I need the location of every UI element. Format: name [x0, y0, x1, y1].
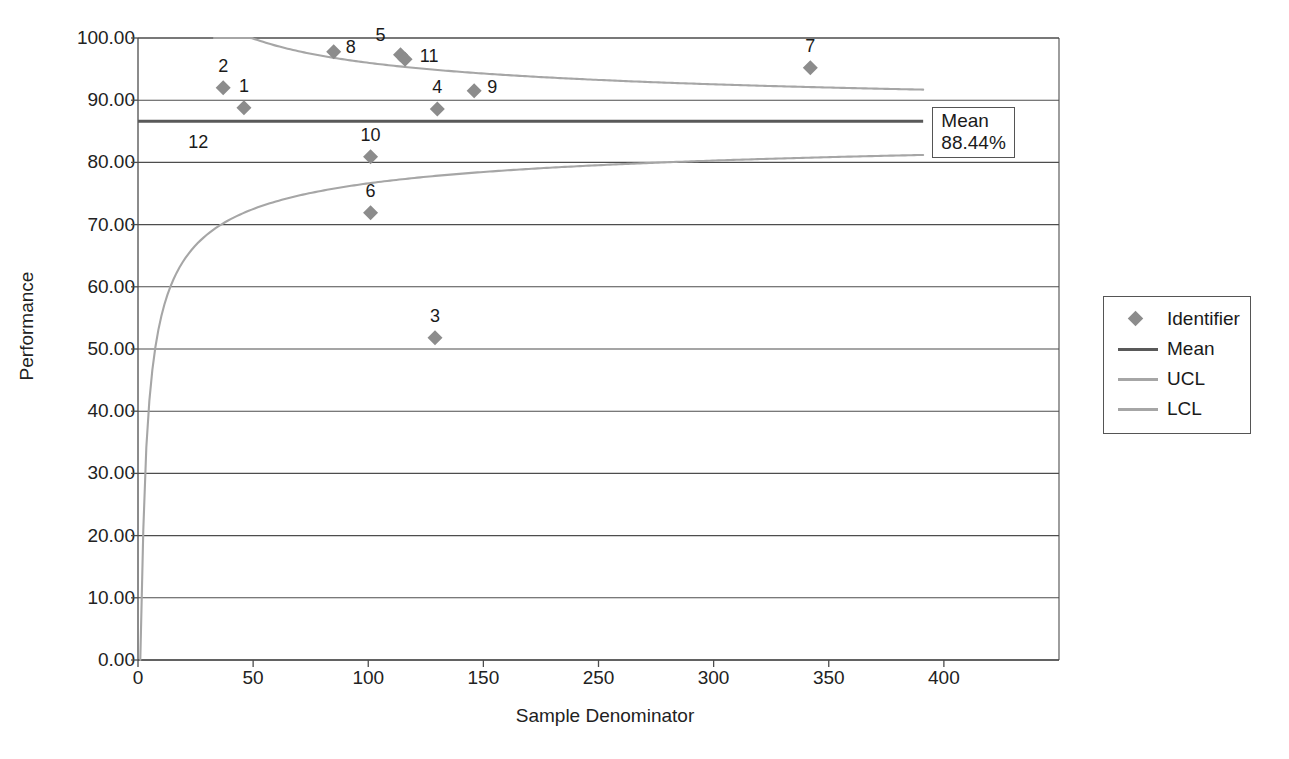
data-point-label: 10: [361, 125, 381, 146]
data-point-marker[interactable]: [803, 60, 818, 75]
legend-item-label: LCL: [1167, 398, 1202, 420]
diamond-icon: [1128, 311, 1144, 327]
mean-annotation-value: 88.44%: [941, 132, 1005, 153]
legend-line-icon: [1114, 369, 1160, 389]
data-point-marker[interactable]: [216, 80, 231, 95]
legend-line-icon: [1114, 399, 1160, 419]
legend-item-label: UCL: [1167, 368, 1205, 390]
mean-annotation-title: Mean: [941, 110, 1005, 131]
line-icon: [1118, 408, 1158, 411]
data-point-label: 12: [188, 132, 208, 153]
data-point-marker[interactable]: [363, 205, 378, 220]
data-point-label: 9: [487, 77, 497, 98]
data-point-label: 4: [432, 77, 442, 98]
line-icon: [1118, 348, 1158, 351]
data-point-label: 1: [239, 76, 249, 97]
data-point-marker[interactable]: [236, 100, 251, 115]
chart-legend: IdentifierMeanUCLLCL: [1103, 296, 1251, 434]
legend-line-icon: [1114, 339, 1160, 359]
legend-diamond-icon: [1114, 309, 1160, 329]
mean-annotation-box: Mean 88.44%: [932, 107, 1014, 158]
line-icon: [1118, 378, 1158, 381]
data-point-label: 3: [430, 306, 440, 327]
plot-area: [0, 0, 1289, 759]
funnel-plot-chart: Performance Sample Denominator 0.0010.00…: [0, 0, 1289, 759]
data-point-label: 11: [420, 46, 439, 67]
data-point-label: 5: [375, 25, 385, 46]
legend-item-label: Identifier: [1167, 308, 1240, 330]
legend-item[interactable]: Mean: [1114, 334, 1240, 364]
data-point-label: 8: [346, 37, 356, 58]
data-point-marker[interactable]: [430, 101, 445, 116]
legend-item[interactable]: UCL: [1114, 364, 1240, 394]
legend-item[interactable]: Identifier: [1114, 304, 1240, 334]
lcl-curve: [140, 155, 923, 660]
ucl-curve: [214, 38, 923, 90]
data-point-label: 7: [805, 36, 815, 57]
data-point-marker[interactable]: [467, 83, 482, 98]
data-point-marker[interactable]: [428, 330, 443, 345]
data-point-label: 6: [366, 181, 376, 202]
legend-item-label: Mean: [1167, 338, 1215, 360]
data-point-label: 2: [218, 56, 228, 77]
legend-item[interactable]: LCL: [1114, 394, 1240, 424]
